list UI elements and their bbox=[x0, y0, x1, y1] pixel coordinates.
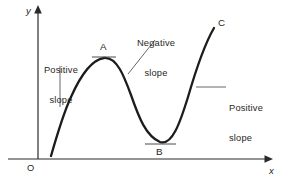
annotation-right-positive-line2: slope bbox=[229, 133, 281, 143]
y-axis-arrowhead bbox=[34, 5, 42, 14]
x-axis-label: x bbox=[269, 166, 274, 176]
annotation-left-positive-line1: Positive bbox=[37, 65, 85, 75]
annotation-right-positive: Positive slope bbox=[229, 82, 281, 164]
origin-label: O bbox=[27, 163, 34, 173]
annotation-left-positive-line2: slope bbox=[37, 95, 85, 105]
annotation-left-positive: Positive slope bbox=[37, 44, 85, 126]
annotation-right-positive-line1: Positive bbox=[229, 103, 281, 113]
slope-figure: y x O A B C Positive slope Negative slop… bbox=[0, 0, 287, 193]
annotation-negative-line2: slope bbox=[131, 68, 181, 78]
point-label-c: C bbox=[218, 18, 225, 28]
point-label-b: B bbox=[156, 147, 163, 157]
annotation-negative: Negative slope bbox=[131, 17, 181, 99]
annotation-negative-line1: Negative bbox=[131, 38, 181, 48]
point-label-a: A bbox=[100, 42, 107, 52]
y-axis-label: y bbox=[26, 6, 31, 16]
